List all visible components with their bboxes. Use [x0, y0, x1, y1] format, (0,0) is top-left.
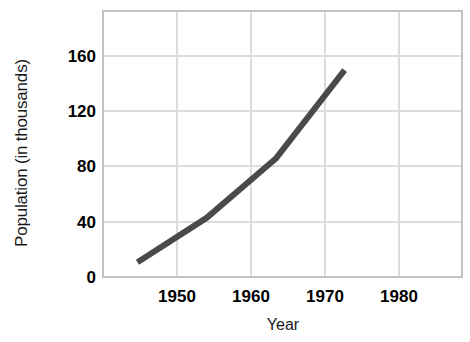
x-tick-labels: 1950 1960 1970 1980: [0, 0, 470, 342]
x-axis-label: Year: [103, 316, 463, 334]
chart-figure: Population (in thousands) 160 120 80 40 …: [0, 0, 470, 342]
x-tick-1980: 1980: [354, 288, 444, 305]
